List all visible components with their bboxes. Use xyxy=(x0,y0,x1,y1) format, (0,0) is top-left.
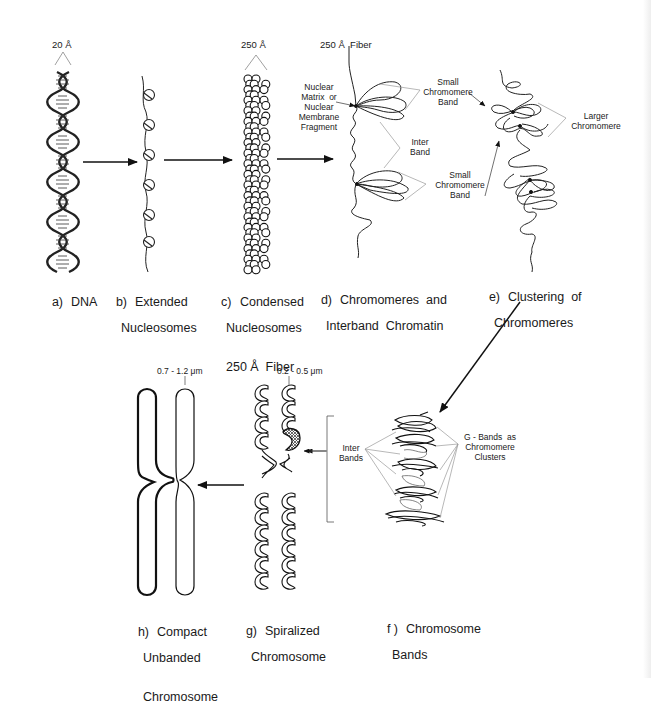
caption-d: d)Chromomeres and Interband Chromatin xyxy=(307,281,447,359)
fiber-title-label: 250 Å Fiber xyxy=(320,40,372,50)
caption-e: e)Clustering of Chromomeres xyxy=(475,278,582,356)
inter-band-label: Inter Band xyxy=(405,137,435,157)
inter-bands-label: Inter Bands xyxy=(336,443,366,463)
fiber-width-label: 250 Å xyxy=(241,40,266,50)
nuclear-matrix-label: Nuclear Matrix or Nuclear Membrane Fragm… xyxy=(293,82,345,132)
caption-g: g)Spiralized Chromosome xyxy=(232,612,326,690)
dna-helix-icon xyxy=(47,52,79,272)
fiber-width-bracket xyxy=(245,55,267,70)
nucleosome-string-icon xyxy=(142,76,155,272)
caption-h: h)Compact Unbanded Chromosome xyxy=(124,613,218,705)
caption-c: c)Condensed Nucleosomes 250 Å Fiber xyxy=(207,283,304,400)
compact-chromosome-icon xyxy=(138,376,194,595)
caption-f: f )Chromosome Bands xyxy=(373,610,481,688)
banded-chromosome-icon xyxy=(307,412,458,526)
spiralized-chromosome-icon xyxy=(255,376,326,589)
caption-b: b)Extended Nucleosomes xyxy=(102,283,197,361)
small-chromomere-band-top-label: Small Chromomere Band xyxy=(420,77,476,107)
caption-a: a)DNA xyxy=(38,283,97,322)
compact-width-label: 0.7 - 1.2 μm xyxy=(157,366,203,376)
larger-chromomere-label: Larger Chromomere xyxy=(566,111,626,131)
right-edge-shade xyxy=(643,0,651,678)
g-bands-label: G - Bands as Chromomere Clusters xyxy=(458,432,522,462)
dna-width-label: 20 Å xyxy=(52,40,72,50)
condensed-fiber-icon xyxy=(244,75,270,274)
small-chromomere-band-bottom-label: Small Chromomere Band xyxy=(432,170,488,200)
chromomere-cluster-icon xyxy=(492,70,566,272)
